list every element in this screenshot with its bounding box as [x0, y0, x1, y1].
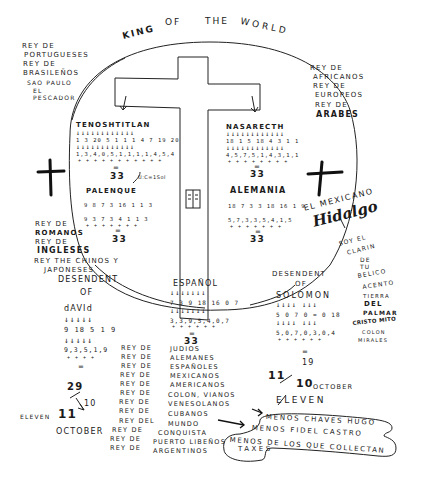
word: ESPAÑOL: [173, 280, 218, 289]
arrows: ↓↓↓↓↓: [64, 316, 93, 324]
text-line: REY DE: [22, 42, 55, 51]
arrows: ↓↓↓↓ ↓↓↓: [276, 320, 318, 328]
october-label: OCTOBER: [313, 383, 353, 392]
text-line: AFRICANOS: [313, 73, 364, 82]
text-line: PESCADOR: [33, 94, 76, 103]
text-line: REY DE: [112, 426, 143, 435]
text-line: MIRALES: [358, 336, 388, 345]
text-line: ARABES: [316, 111, 359, 120]
total: 33: [250, 235, 265, 244]
row: 9 8 7 3 16 1 1 3: [84, 202, 153, 210]
text-line: COLON, VIANOS: [168, 391, 236, 400]
eleven-label: ELEVEN: [20, 413, 51, 422]
total: 33: [112, 235, 127, 244]
text-line: PORTUGUESES: [24, 51, 89, 60]
arrows: ↓↓↓↓↓↓↓: [170, 290, 207, 298]
word: SOLOMON: [276, 292, 331, 301]
word: dAVId: [64, 305, 93, 314]
text-line: REY DE: [119, 398, 150, 407]
heading: DESENDENT: [58, 276, 118, 285]
text-line: ARGENTINOS: [153, 447, 208, 456]
calc-eleven: 11: [58, 410, 77, 419]
text-line: DEL: [364, 300, 383, 309]
text-line: BRASILEÑOS: [23, 69, 79, 78]
text-line: REY DE: [121, 344, 152, 353]
text-line: REY DE: [23, 60, 56, 69]
word: ALEMANIA: [230, 187, 286, 196]
text-line: REY DE: [121, 353, 152, 362]
equals: =: [78, 363, 85, 372]
left-small-cross: [38, 160, 64, 195]
row: 18 7 3 3 18 16 1 9: [228, 203, 306, 211]
text-line: ROMANOS: [35, 229, 84, 238]
text-line: REY DE: [310, 64, 343, 73]
plus-row: + + + + + + +: [86, 222, 138, 230]
text-line: INGLESES: [37, 247, 90, 256]
text-line: REY DE: [120, 380, 151, 389]
heading: OF: [295, 280, 307, 289]
row: 5 0 7 0 = 0 18: [276, 311, 341, 319]
text-line: REY DE: [110, 435, 141, 444]
arrows: ↓↓↓↓↓↓↓: [170, 308, 207, 316]
row: 7 3 9 18 16 0 7: [170, 299, 239, 307]
text-line: ALEMANES: [170, 354, 215, 363]
eleven-label: ELEVEN: [276, 396, 326, 405]
equals: =: [302, 348, 309, 357]
word: PALENQUE: [86, 187, 137, 196]
text-line: REY DE: [119, 407, 150, 416]
text-line: REY DE: [315, 101, 348, 110]
text-line: PUERTO LIBEÑOS: [153, 438, 226, 447]
text-line: REY DEL: [119, 417, 155, 426]
total: 33: [250, 170, 265, 179]
calc-eleven: 11: [268, 372, 286, 381]
bubble-line: TAXES: [238, 445, 273, 454]
plus-row: + + + + + + + + + + +: [78, 157, 162, 165]
text-line: REY DE: [120, 389, 151, 398]
heading: DESENDENT: [272, 270, 326, 279]
plus-row: + + + + + +: [278, 336, 322, 344]
text-line: JAPONESES: [44, 266, 94, 275]
row: 9 18 5 1 9: [64, 327, 116, 335]
text-line: REY DE: [121, 362, 152, 371]
book-icon: [186, 190, 200, 208]
right-small-cross: [308, 162, 342, 195]
calc-ten: 10: [296, 380, 314, 389]
title-the: THE: [205, 17, 229, 26]
arrows: ↓↓↓↓ ↓↓↓: [276, 302, 318, 310]
text-line: MUNDO: [168, 420, 199, 429]
text-line: AMERICANOS: [170, 381, 226, 390]
total: 19: [302, 359, 315, 368]
arrows: ↓↓↓↓↓: [64, 337, 93, 345]
total: 29: [67, 383, 83, 392]
text-line: REY DE: [110, 444, 141, 453]
text-line: MEXICANOS: [170, 372, 220, 381]
text-line: CONQUISTA: [158, 429, 207, 438]
heading: OF: [80, 289, 93, 298]
text-line: JUDIOS: [170, 345, 200, 354]
plus-row: + + + +: [67, 354, 95, 362]
title-of: OF: [165, 18, 181, 27]
text-line: ESPAÑOLES: [170, 363, 219, 372]
calc-ten: 10: [84, 400, 97, 409]
text-line: EUROPEOS: [315, 91, 363, 100]
text-line: CUBANOS: [168, 410, 209, 419]
october-label: OCTOBER: [56, 428, 104, 437]
total: 33: [110, 172, 125, 181]
text-line: REY DE: [313, 82, 346, 91]
text-line: VENESOLANOS: [168, 400, 230, 409]
text-line: REY DE: [120, 371, 151, 380]
text-line: REY THE CHINOS Y: [34, 257, 119, 266]
text-line: REY DE: [35, 220, 68, 229]
note: U:C=1Sol: [138, 173, 166, 182]
